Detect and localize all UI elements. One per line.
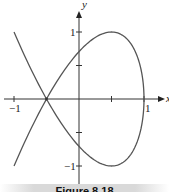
chart: xy−111−1 [0,0,169,192]
y-axis-label: y [81,0,87,10]
intersection-point [45,98,48,101]
y-axis-arrow-icon [76,11,82,18]
x-tick-label: −1 [9,102,21,114]
x-axis-arrow-icon [158,96,165,102]
labels-group: xy−111−1 [9,0,169,172]
axes [4,11,165,184]
x-tick-label: 1 [145,102,151,114]
figure-caption: Figure 8.18 [0,185,169,192]
x-axis-label: x [165,92,169,104]
y-tick-label: 1 [70,26,76,38]
y-tick-label: −1 [64,160,76,172]
